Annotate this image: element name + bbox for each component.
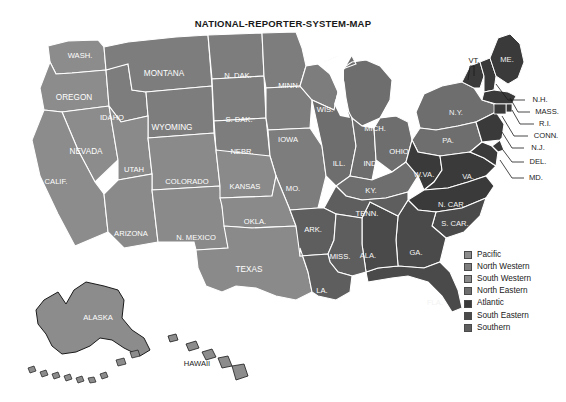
legend-swatch-north-eastern <box>464 287 472 295</box>
legend-label-south-western: South Western <box>477 275 531 283</box>
legend-label-north-western: North Western <box>477 263 530 271</box>
label-hawaii: HAWAII <box>184 359 210 368</box>
legend-item-southern[interactable]: Southern <box>464 322 564 334</box>
state-n-mexico[interactable] <box>152 186 228 250</box>
leader-conn <box>502 116 528 136</box>
legend-swatch-atlantic <box>464 300 472 308</box>
legend-swatch-south-western <box>464 275 472 283</box>
map-page: NATIONAL-REPORTER-SYSTEM-MAP <box>0 0 566 402</box>
state-hawaii[interactable] <box>168 334 248 380</box>
label-md: MD. <box>529 173 543 182</box>
state-fla[interactable] <box>366 262 462 312</box>
alaska-islands <box>28 350 140 383</box>
legend-item-atlantic[interactable]: Atlantic <box>464 298 564 310</box>
state-conn[interactable] <box>494 104 506 114</box>
label-del: DEL. <box>530 157 547 166</box>
legend-label-pacific: Pacific <box>477 251 501 259</box>
legend-item-south-western[interactable]: South Western <box>464 273 564 285</box>
label-mass: MASS. <box>535 107 559 116</box>
state-kansas[interactable] <box>216 150 276 198</box>
label-n-h: N.H. <box>532 95 547 104</box>
state-mass[interactable] <box>482 90 516 104</box>
legend-item-south-eastern[interactable]: South Eastern <box>464 310 564 322</box>
state-r-i[interactable] <box>506 104 512 112</box>
label-fla: FLA. <box>427 298 443 307</box>
legend-item-north-western[interactable]: North Western <box>464 261 564 273</box>
legend-swatch-pacific <box>464 251 472 259</box>
legend-label-north-eastern: North Eastern <box>477 287 528 295</box>
leader-del <box>503 150 524 162</box>
leader-md <box>500 160 524 178</box>
legend-label-atlantic: Atlantic <box>477 299 504 307</box>
legend-swatch-southern <box>464 324 472 332</box>
legend-item-pacific[interactable]: Pacific <box>464 249 564 261</box>
state-colorado[interactable] <box>148 133 220 190</box>
state-wash[interactable] <box>48 40 106 74</box>
map-legend: Pacific North Western South Western Nort… <box>464 249 564 334</box>
legend-label-south-eastern: South Eastern <box>477 312 529 320</box>
legend-swatch-north-western <box>464 263 472 271</box>
legend-label-southern: Southern <box>477 324 510 332</box>
label-conn: CONN. <box>534 131 558 140</box>
state-minn[interactable] <box>262 32 306 88</box>
state-n-dak[interactable] <box>208 33 264 79</box>
label-r-i: R.I. <box>539 119 551 128</box>
state-s-dak[interactable] <box>212 76 266 121</box>
us-map: WASH. OREGON IDAHO MONTANA WYOMING NEVAD… <box>0 0 566 402</box>
state-wyoming[interactable] <box>146 86 214 138</box>
legend-item-north-eastern[interactable]: North Eastern <box>464 286 564 298</box>
mainland-states <box>28 32 524 383</box>
state-arizona[interactable] <box>104 174 158 248</box>
legend-swatch-south-eastern <box>464 312 472 320</box>
label-n-j: N.J. <box>531 143 545 152</box>
state-alaska[interactable] <box>36 282 150 356</box>
